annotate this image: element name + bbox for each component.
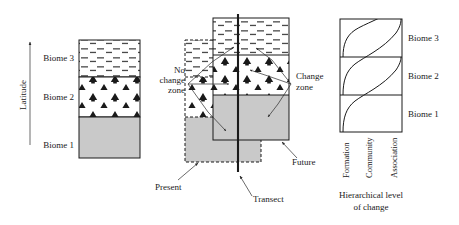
biome-shift-diagram: Latitude Biome 3 Biome 2 Biome 1 xyxy=(0,0,459,225)
left-biome2-band xyxy=(79,77,140,117)
latitude-axis-label: Latitude xyxy=(18,80,28,110)
transect-label: Transect xyxy=(253,194,284,204)
present-callout: Present xyxy=(155,163,198,192)
panel-right-hierarchical-plot: Biome 3 Biome 2 Biome 1 Formation Commun… xyxy=(339,8,439,212)
left-label-biome3: Biome 3 xyxy=(43,53,74,63)
future-label: Future xyxy=(292,157,316,167)
right-caption-line2: of change xyxy=(353,202,388,212)
right-label-biome1: Biome 1 xyxy=(408,109,439,119)
panel-middle-shifted-columns: No change zone Change zone Present Futur… xyxy=(155,14,324,204)
xtick-formation: Formation xyxy=(341,142,351,178)
change-zone-label: Change zone xyxy=(296,71,324,92)
right-label-biome3: Biome 3 xyxy=(408,33,439,43)
left-biome3-band xyxy=(79,40,140,77)
left-label-biome2: Biome 2 xyxy=(43,92,74,102)
svg-text:change: change xyxy=(160,75,185,85)
svg-text:zone: zone xyxy=(168,85,185,95)
svg-text:No: No xyxy=(174,65,185,75)
xtick-community: Community xyxy=(364,137,374,178)
latitude-axis: Latitude xyxy=(18,42,30,145)
xtick-association: Association xyxy=(389,137,399,178)
svg-text:zone: zone xyxy=(296,82,313,92)
no-change-zone-label: No change zone xyxy=(160,65,186,95)
future-callout: Future xyxy=(282,142,316,167)
panel-left-present-column: Latitude Biome 3 Biome 2 Biome 1 xyxy=(18,40,140,158)
left-label-biome1: Biome 1 xyxy=(43,140,74,150)
left-biome1-band xyxy=(79,117,140,158)
right-caption-line1: Hierarchical level xyxy=(339,190,404,200)
svg-text:Change: Change xyxy=(296,71,324,81)
right-label-biome2: Biome 2 xyxy=(408,71,439,81)
transect-callout: Transect xyxy=(240,176,284,204)
present-label: Present xyxy=(155,182,182,192)
